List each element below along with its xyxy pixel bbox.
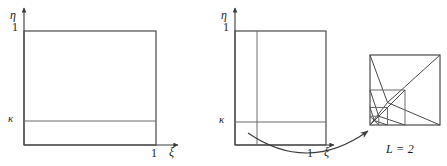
figure-root: η 1 κ 1 ξ η 1 κ 1 ξ L = 2 xyxy=(0,0,447,166)
middle-eta-tick-label: 1 xyxy=(223,21,229,33)
mesh-level-caption: L = 2 xyxy=(386,143,414,155)
left-panel-group xyxy=(24,8,178,145)
middle-kappa-label: κ xyxy=(219,114,224,125)
left-eta-tick-label: 1 xyxy=(12,21,18,33)
mesh-level-3-block xyxy=(370,116,379,125)
left-xi-axis-label: ξ xyxy=(169,146,174,158)
middle-xi-tick-label: 1 xyxy=(307,147,313,159)
middle-unit-square xyxy=(235,31,326,145)
left-unit-square xyxy=(24,31,156,145)
left-xi-tick-label: 1 xyxy=(151,147,157,159)
right-mesh-group xyxy=(370,55,440,125)
middle-panel-group xyxy=(235,8,334,145)
left-kappa-label: κ xyxy=(8,113,13,124)
middle-xi-axis-label: ξ xyxy=(324,146,329,158)
